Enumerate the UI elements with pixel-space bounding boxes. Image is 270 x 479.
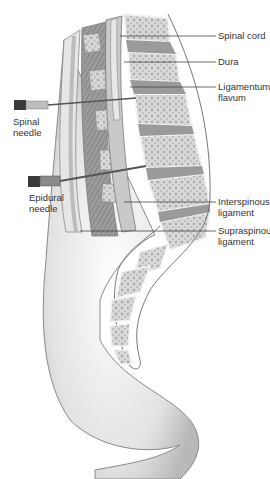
diagram-figure: Spinal cord Dura Ligamentum flavum Inter…	[0, 0, 270, 479]
label-dura: Dura	[218, 56, 239, 67]
label-epidural-needle: Epidural needle	[29, 192, 64, 214]
label-supraspinous-ligament: Supraspinous ligament	[218, 225, 270, 247]
label-spinal-needle: Spinal needle	[13, 116, 42, 138]
label-interspinous-ligament: Interspinous ligament	[218, 196, 270, 218]
label-ligamentum-flavum: Ligamentum flavum	[218, 81, 270, 103]
label-spinal-cord: Spinal cord	[218, 30, 266, 41]
